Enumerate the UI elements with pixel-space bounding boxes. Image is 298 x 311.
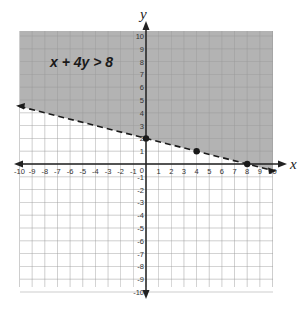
y-tick-label: 3 — [140, 122, 144, 131]
x-tick-label: 5 — [207, 167, 211, 176]
x-tick-label: 4 — [195, 167, 199, 176]
y-tick-label: -2 — [137, 186, 144, 195]
y-tick-label: 4 — [140, 109, 144, 118]
coordinate-plane: xy-10-9-8-7-6-5-4-3-2-112345678910-10-9-… — [0, 0, 298, 311]
x-tick-label: -4 — [92, 167, 99, 176]
x-tick-label: -6 — [67, 167, 74, 176]
x-tick-label: 2 — [169, 167, 173, 176]
y-tick-label: -6 — [137, 237, 144, 246]
x-tick-label: -5 — [79, 167, 86, 176]
y-tick-label: -8 — [137, 262, 144, 271]
y-axis-arrow-icon — [143, 21, 150, 30]
x-tick-label: -3 — [105, 167, 112, 176]
y-tick-label: 6 — [140, 83, 144, 92]
plotted-point — [143, 135, 149, 141]
plotted-point — [244, 161, 250, 167]
x-axis-arrow-icon — [278, 161, 287, 168]
plotted-point — [193, 148, 199, 154]
x-tick-label: -10 — [14, 167, 25, 176]
y-tick-label: 1 — [140, 147, 144, 156]
y-tick-label: -10 — [133, 288, 144, 297]
x-tick-label: 7 — [232, 167, 236, 176]
x-tick-label: -8 — [41, 167, 48, 176]
inequality-label: x + 4y > 8 — [49, 54, 113, 70]
x-tick-label: 1 — [157, 167, 161, 176]
y-tick-label: 5 — [140, 96, 144, 105]
x-tick-label: 8 — [245, 167, 249, 176]
x-tick-label: 6 — [220, 167, 224, 176]
x-tick-label: 9 — [258, 167, 262, 176]
y-tick-label: 7 — [140, 70, 144, 79]
y-tick-label: -9 — [137, 275, 144, 284]
y-tick-label: 9 — [140, 45, 144, 54]
y-axis-label: y — [138, 6, 147, 22]
x-tick-label: -7 — [54, 167, 61, 176]
y-tick-label: -3 — [137, 198, 144, 207]
x-tick-label: -2 — [117, 167, 124, 176]
y-tick-label: 10 — [136, 32, 144, 41]
x-tick-label: -9 — [29, 167, 36, 176]
x-axis-label: x — [289, 156, 297, 172]
y-tick-label: 8 — [140, 58, 144, 67]
x-tick-label: 3 — [182, 167, 186, 176]
y-tick-label: -4 — [137, 211, 144, 220]
origin-label: 0 — [140, 166, 144, 175]
y-tick-label: -5 — [137, 224, 144, 233]
x-tick-label: -1 — [130, 167, 137, 176]
y-tick-label: -7 — [137, 250, 144, 259]
